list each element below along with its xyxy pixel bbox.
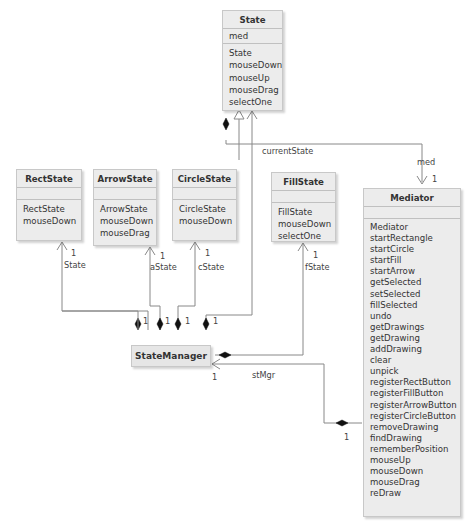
class-arrowstate[interactable]: ArrowState ArrowState mouseDown mouseDra… bbox=[93, 169, 157, 246]
operation: mouseDrag bbox=[229, 84, 276, 96]
multiplicity-rect: 1 bbox=[71, 248, 76, 258]
operation: registerCircleButton bbox=[370, 411, 454, 422]
composition-diamond-current bbox=[203, 318, 209, 330]
multiplicity-fill: 1 bbox=[313, 250, 318, 260]
operation: selectOne bbox=[229, 96, 276, 108]
multiplicity-sm-arrow: 1 bbox=[165, 316, 170, 326]
operation: findDrawing bbox=[370, 433, 454, 444]
multiplicity-sm-circle: 1 bbox=[185, 316, 190, 326]
operation: selectOne bbox=[278, 230, 329, 242]
class-name: ArrowState bbox=[94, 170, 156, 188]
composition-diamond-state bbox=[223, 118, 229, 130]
operation: mouseDown bbox=[229, 59, 276, 71]
operation: mouseUp bbox=[229, 72, 276, 84]
operation: mouseDrag bbox=[370, 477, 454, 488]
operation: startFill bbox=[370, 255, 454, 266]
attributes-compartment bbox=[17, 188, 81, 200]
composition-diamond-mediator bbox=[336, 420, 348, 426]
assoc-statemanager-arrowstate bbox=[150, 248, 160, 330]
operation: getSelected bbox=[370, 277, 454, 288]
operations-compartment: RectState mouseDown bbox=[17, 200, 81, 232]
operation: mouseUp bbox=[370, 455, 454, 466]
operations-compartment: State mouseDown mouseUp mouseDrag select… bbox=[223, 44, 282, 113]
operation: fillSelected bbox=[370, 300, 454, 311]
operation: mouseDown bbox=[370, 466, 454, 477]
operation: Mediator bbox=[370, 222, 454, 233]
class-fillstate[interactable]: FillState FillState mouseDown selectOne bbox=[271, 172, 336, 242]
composition-diamond-arrow bbox=[157, 318, 163, 330]
multiplicity-arrow: 1 bbox=[160, 251, 165, 261]
operation: mouseDown bbox=[23, 215, 75, 227]
operations-compartment: ArrowState mouseDown mouseDrag bbox=[94, 200, 156, 245]
class-circlestate[interactable]: CircleState CircleState mouseDown bbox=[172, 169, 237, 241]
operation: getDrawings bbox=[370, 322, 454, 333]
role-cstate: cState bbox=[198, 262, 224, 272]
assoc-statemanager-fillstate bbox=[215, 244, 303, 355]
operation: State bbox=[229, 47, 276, 59]
attributes-compartment: med bbox=[223, 29, 282, 44]
multiplicity-sm-current: 1 bbox=[213, 316, 218, 326]
class-statemanager[interactable]: StateManager bbox=[131, 345, 211, 367]
class-state[interactable]: State med State mouseDown mouseUp mouseD… bbox=[222, 10, 283, 111]
role-stmgr: stMgr bbox=[252, 370, 275, 380]
operation: FillState bbox=[278, 206, 329, 218]
role-fstate: fState bbox=[305, 262, 330, 272]
attributes-compartment bbox=[272, 191, 335, 203]
operation: registerRectButton bbox=[370, 377, 454, 388]
multiplicity-circle: 1 bbox=[205, 248, 210, 258]
operation: mouseDrag bbox=[100, 227, 150, 239]
operation: mouseDown bbox=[179, 215, 230, 227]
composition-diamond-circle bbox=[175, 318, 181, 330]
class-mediator[interactable]: Mediator MediatorstartRectanglestartCirc… bbox=[363, 188, 461, 517]
class-name: CircleState bbox=[173, 170, 236, 188]
class-name: StateManager bbox=[135, 351, 207, 361]
operation: CircleState bbox=[179, 203, 230, 215]
attribute: med bbox=[229, 30, 276, 42]
multiplicity-sm-rect: 1 bbox=[143, 316, 148, 326]
class-name: FillState bbox=[272, 173, 335, 191]
operation: registerArrowButton bbox=[370, 400, 454, 411]
attributes-compartment bbox=[173, 188, 236, 200]
operation: startCircle bbox=[370, 244, 454, 255]
class-name: RectState bbox=[17, 170, 81, 188]
operation: rememberPosition bbox=[370, 444, 454, 455]
class-name: Mediator bbox=[364, 189, 460, 207]
operation: startRectangle bbox=[370, 233, 454, 244]
role-rect-state: State bbox=[64, 260, 86, 270]
multiplicity-med: 1 bbox=[432, 174, 437, 184]
multiplicity-stmgr: 1 bbox=[212, 372, 217, 382]
operation: mouseDown bbox=[100, 215, 150, 227]
operations-compartment: FillState mouseDown selectOne bbox=[272, 203, 335, 248]
operation: removeDrawing bbox=[370, 422, 454, 433]
operation: ArrowState bbox=[100, 203, 150, 215]
operation: mouseDown bbox=[278, 218, 329, 230]
attributes-compartment bbox=[364, 207, 460, 219]
operation: clear bbox=[370, 355, 454, 366]
operations-compartment: MediatorstartRectanglestartCirclestartFi… bbox=[364, 219, 460, 504]
operation: undo bbox=[370, 311, 454, 322]
role-astate: aState bbox=[150, 262, 177, 272]
operations-compartment: CircleState mouseDown bbox=[173, 200, 236, 232]
class-name: State bbox=[223, 11, 282, 29]
attributes-compartment bbox=[94, 188, 156, 200]
class-rectstate[interactable]: RectState RectState mouseDown bbox=[16, 169, 82, 241]
assoc-mediator-statemanager bbox=[212, 364, 362, 423]
operation: getDrawing bbox=[370, 333, 454, 344]
multiplicity-mediator: 1 bbox=[344, 432, 349, 442]
operation: addDrawing bbox=[370, 344, 454, 355]
operation: setSelected bbox=[370, 289, 454, 300]
role-med: med bbox=[417, 157, 435, 167]
operation: RectState bbox=[23, 203, 75, 215]
operation: reDraw bbox=[370, 488, 454, 499]
composition-diamond-fill bbox=[219, 352, 231, 358]
operation: unpick bbox=[370, 366, 454, 377]
operation: registerFillButton bbox=[370, 388, 454, 399]
operation: startArrow bbox=[370, 266, 454, 277]
role-current-state: currentState bbox=[262, 146, 313, 156]
